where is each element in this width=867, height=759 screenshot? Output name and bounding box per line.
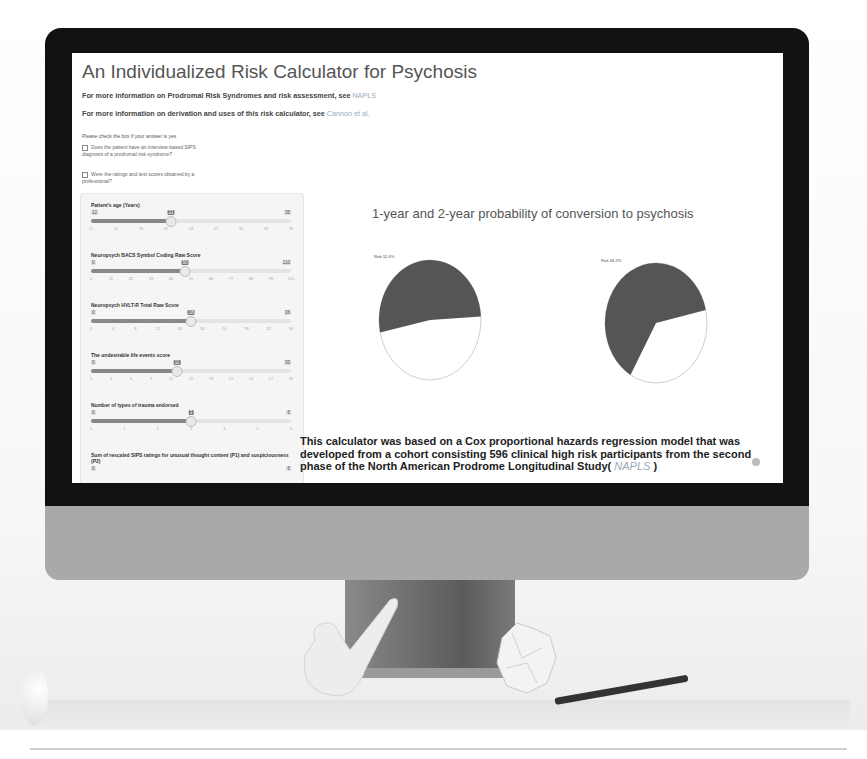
input-sidebar: Patient's age (Years) 12 21 35 121518212… xyxy=(80,193,304,483)
info-text: For more information on derivation and u… xyxy=(82,109,327,118)
slider-5[interactable]: Sum of rescaled SIPS ratings for unusual… xyxy=(91,452,291,473)
cannon-link[interactable]: Cannon et al. xyxy=(327,109,370,118)
slider-tick: 0 xyxy=(90,376,92,381)
slider-tick: 11 xyxy=(109,276,113,281)
slider-tick: 32 xyxy=(267,326,271,331)
slider-max: 6 xyxy=(286,410,291,415)
slider-ticks: 04812162024283236 xyxy=(91,326,291,333)
slider-value: 18 xyxy=(187,310,194,315)
slider-fill xyxy=(91,269,185,273)
slider-tick: 6 xyxy=(130,376,132,381)
slider-tick: 9 xyxy=(150,376,152,381)
slider-tick: 0 xyxy=(90,326,92,331)
slider-tick: 88 xyxy=(249,276,253,281)
slider-fill xyxy=(91,219,171,223)
slider-max: 6 xyxy=(286,466,291,471)
slider-tick: 66 xyxy=(209,276,213,281)
info-line-cannon: For more information on derivation and u… xyxy=(82,109,370,118)
slider-min: 0 xyxy=(91,360,96,365)
sips-diagnosis-checkbox[interactable]: Does the patient have an interview-based… xyxy=(82,144,202,158)
slider-tick: 30 xyxy=(239,226,243,231)
checkbox-hint: Please check the box if your answer is y… xyxy=(82,133,176,139)
slider-track[interactable] xyxy=(91,269,291,273)
slider-tick: 12 xyxy=(169,376,173,381)
slider-tick: 33 xyxy=(149,276,153,281)
slider-tick: 24 xyxy=(222,326,226,331)
slider-tick: 21 xyxy=(164,226,168,231)
checkbox-label: Does the patient have an interview-based… xyxy=(82,144,196,157)
slider-min: 0 xyxy=(91,410,96,415)
slider-tick: 44 xyxy=(169,276,173,281)
slider-tick: 6 xyxy=(290,426,292,431)
slider-tick: 15 xyxy=(114,226,118,231)
slider-min: 12 xyxy=(91,210,98,215)
slider-tick: 22 xyxy=(129,276,133,281)
slider-tick: 35 xyxy=(289,226,293,231)
slider-tick: 8 xyxy=(134,326,136,331)
monitor-chin xyxy=(45,500,809,580)
slider-tick: 18 xyxy=(139,226,143,231)
slider-ticks: 0112233445566778899110 xyxy=(91,276,291,283)
slider-tick: 2 xyxy=(157,426,159,431)
slider-tick: 30 xyxy=(289,376,293,381)
slider-tick: 3 xyxy=(110,376,112,381)
description-text: This calculator was based on a Cox propo… xyxy=(300,435,751,472)
slider-track[interactable] xyxy=(91,369,291,373)
slider-label: Patient's age (Years) xyxy=(91,202,291,208)
slider-tick: 27 xyxy=(269,376,273,381)
slider-tick: 36 xyxy=(289,326,293,331)
slider-ticks: 0123456 xyxy=(91,426,291,433)
slider-0[interactable]: Patient's age (Years) 12 21 35 121518212… xyxy=(91,202,291,233)
slider-tick: 27 xyxy=(214,226,218,231)
slider-tick: 55 xyxy=(189,276,193,281)
slider-2[interactable]: Neuropsych HVLT-R Total Raw Score 0 18 3… xyxy=(91,302,291,333)
bottom-divider xyxy=(30,748,847,750)
slider-fill xyxy=(91,319,191,323)
slider-max: 35 xyxy=(284,210,291,215)
page-title: An Individualized Risk Calculator for Ps… xyxy=(82,61,477,83)
professional-ratings-checkbox[interactable]: Were the ratings and test scores obtaine… xyxy=(82,171,202,185)
slider-label: The undesirable life events score xyxy=(91,352,291,358)
crumpled-paper xyxy=(492,618,560,696)
slider-fill xyxy=(91,419,191,423)
slider-track[interactable] xyxy=(91,219,291,223)
slider-tick: 33 xyxy=(264,226,268,231)
slider-tick: 12 xyxy=(155,326,159,331)
slider-track[interactable] xyxy=(91,419,291,423)
slider-tick: 20 xyxy=(200,326,204,331)
desk-shadow xyxy=(30,700,850,730)
slider-tick: 3 xyxy=(190,426,192,431)
slider-track[interactable] xyxy=(91,319,291,323)
slider-1[interactable]: Neuropsych BACS Symbol Coding Raw Score … xyxy=(91,252,291,283)
slider-min: 0 xyxy=(91,310,96,315)
slider-tick: 15 xyxy=(189,376,193,381)
info-line-naplss: For more information on Prodromal Risk S… xyxy=(82,91,376,100)
description-suffix: ) xyxy=(650,460,657,472)
slider-tick: 12 xyxy=(89,226,93,231)
slider-tick: 4 xyxy=(112,326,114,331)
slider-3[interactable]: The undesirable life events score 0 11 3… xyxy=(91,352,291,383)
slider-max: 30 xyxy=(284,360,291,365)
slider-ticks: 036912151821242730 xyxy=(91,376,291,383)
slider-value: 11 xyxy=(174,360,181,365)
ceramic-bird-figurine xyxy=(295,595,415,705)
slider-tick: 18 xyxy=(209,376,213,381)
slider-label: Sum of rescaled SIPS ratings for unusual… xyxy=(91,452,291,464)
slider-value: 50 xyxy=(181,260,188,265)
slider-tick: 4 xyxy=(223,426,225,431)
pie-1yr xyxy=(377,258,483,383)
slider-label: Neuropsych HVLT-R Total Raw Score xyxy=(91,302,291,308)
slider-fill xyxy=(91,369,177,373)
slider-tick: 110 xyxy=(288,276,294,281)
slider-tick: 1 xyxy=(123,426,125,431)
slider-min: 0 xyxy=(91,260,96,265)
naplss-study-link[interactable]: NAPLS xyxy=(614,460,650,472)
slider-label: Neuropsych BACS Symbol Coding Raw Score xyxy=(91,252,291,258)
info-text: For more information on Prodromal Risk S… xyxy=(82,91,352,100)
slider-label: Number of types of trauma endorsed xyxy=(91,402,291,408)
white-ball-decoration xyxy=(20,665,48,725)
naplss-link[interactable]: NAPLS xyxy=(352,91,376,100)
slider-4[interactable]: Number of types of trauma endorsed 0 3 6… xyxy=(91,402,291,433)
monitor-screen: An Individualized Risk Calculator for Ps… xyxy=(72,53,783,483)
chart-title: 1-year and 2-year probability of convers… xyxy=(372,206,694,221)
